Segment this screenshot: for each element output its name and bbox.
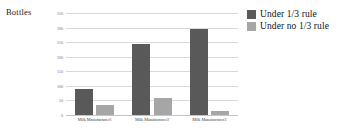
bar [96,105,114,115]
bar-group: Milk Manufacturer1 [66,13,123,115]
x-axis-category-label: Milk Manufacturer2 [135,117,169,122]
legend-swatch-light [247,22,256,31]
x-axis-category-label: Milk Manufacturer3 [192,117,226,122]
chart-legend: Under 1/3 ruleUnder no 1/3 rule [247,9,329,31]
bar [75,89,93,115]
bars-layer: Milk Manufacturer1Milk Manufacturer2Milk… [66,13,238,115]
bar-chart: Bottles 050100150200250300350 Milk Manuf… [0,0,359,135]
bar-group: Milk Manufacturer3 [181,13,238,115]
bar [190,29,208,115]
legend-swatch-dark [247,10,256,19]
legend-item[interactable]: Under no 1/3 rule [247,21,329,31]
y-axis-tick-label: 300 [57,25,63,30]
y-axis-tick-label: 50 [59,98,63,103]
legend-item-label: Under 1/3 rule [260,9,317,19]
gridline [66,115,238,116]
y-axis-tick-label: 350 [57,11,63,16]
y-axis-tick-label: 250 [57,40,63,45]
bar-group: Milk Manufacturer2 [123,13,180,115]
y-axis-tick-label: 100 [57,83,63,88]
legend-item-label: Under no 1/3 rule [260,21,329,31]
y-axis-tick-label: 0 [61,113,63,118]
bar [154,98,172,115]
y-axis-tick-label: 200 [57,54,63,59]
y-axis-tick-label: 150 [57,69,63,74]
y-axis-title: Bottles [6,7,32,17]
bar [132,44,150,115]
bar [211,111,229,115]
x-axis-category-label: Milk Manufacturer1 [78,117,112,122]
legend-item[interactable]: Under 1/3 rule [247,9,329,19]
plot-area: 050100150200250300350 Milk Manufacturer1… [66,13,238,115]
